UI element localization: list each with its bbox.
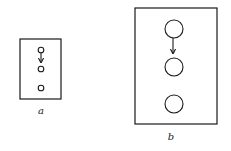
figure-canvas: a b: [0, 0, 231, 151]
panel-b-frame: [135, 8, 217, 124]
panel-b-label: b: [168, 131, 174, 142]
panel-b-circle-middle: [165, 58, 183, 76]
panel-a-circle-middle: [38, 66, 44, 72]
panel-a-frame: [20, 39, 61, 99]
panel-a-label: a: [38, 105, 44, 116]
panel-a-circle-bottom: [38, 85, 44, 91]
panel-a: a: [20, 39, 61, 116]
panel-b-circle-bottom: [165, 95, 183, 113]
panel-b: b: [135, 8, 217, 142]
panel-a-circle-top: [38, 47, 44, 53]
panel-b-circle-top: [165, 20, 183, 38]
